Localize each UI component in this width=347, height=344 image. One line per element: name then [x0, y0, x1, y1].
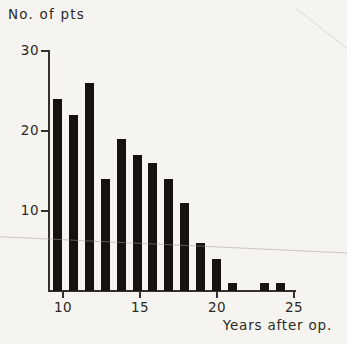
- x-tick-15: [139, 291, 141, 298]
- y-tick-20: [41, 130, 49, 132]
- y-tick-10: [41, 210, 49, 212]
- x-tick-label-15: 15: [125, 299, 155, 315]
- bar-year-12: [85, 83, 94, 291]
- bar-year-19: [196, 243, 205, 291]
- bar-year-14: [117, 139, 126, 291]
- bar-year-13: [101, 179, 110, 291]
- bar-year-20: [212, 259, 221, 291]
- bar-year-15: [133, 155, 142, 291]
- x-tick-20: [216, 291, 218, 298]
- bar-year-10: [53, 99, 62, 291]
- x-axis-title: Years after op.: [0, 317, 332, 333]
- x-tick-label-20: 20: [202, 299, 232, 315]
- x-tick-label-25: 25: [279, 299, 309, 315]
- y-axis-line: [48, 50, 50, 291]
- x-tick-25: [293, 291, 295, 298]
- bar-year-11: [69, 115, 78, 291]
- scanned-chart-page: No. of pts 102030 10152025 Years after o…: [0, 0, 347, 344]
- x-tick-label-10: 10: [48, 299, 78, 315]
- bar-year-23: [260, 283, 269, 291]
- y-tick-label-20: 20: [13, 122, 39, 138]
- bar-year-24: [276, 283, 285, 291]
- bar-year-21: [228, 283, 237, 291]
- bar-chart: No. of pts 102030 10152025 Years after o…: [0, 0, 347, 344]
- scan-artifact-smudge: [296, 8, 347, 52]
- y-tick-label-30: 30: [13, 42, 39, 58]
- bar-year-18: [180, 203, 189, 291]
- bar-year-16: [148, 163, 157, 291]
- bar-year-17: [164, 179, 173, 291]
- y-tick-label-10: 10: [13, 202, 39, 218]
- y-axis-title: No. of pts: [8, 6, 85, 22]
- x-tick-10: [62, 291, 64, 298]
- y-tick-30: [41, 50, 49, 52]
